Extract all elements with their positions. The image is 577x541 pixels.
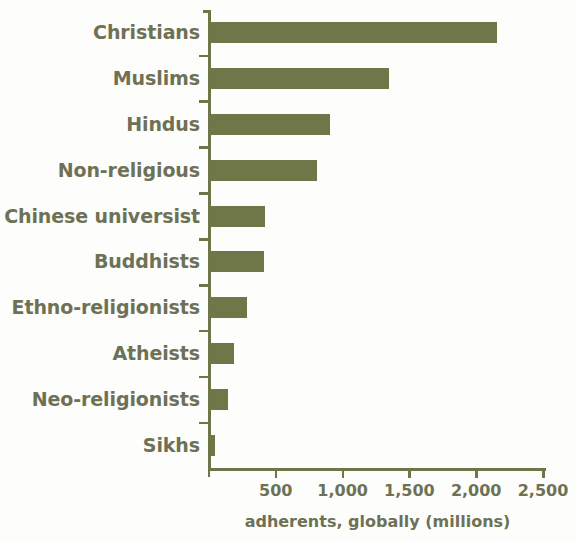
category-label: Chinese universist xyxy=(4,194,200,240)
bar xyxy=(210,206,265,227)
bar-row: Ethno-religionists xyxy=(0,285,577,331)
y-axis-tick xyxy=(199,330,210,333)
bar-chart: ChristiansMuslimsHindusNon-religiousChin… xyxy=(0,0,577,541)
bar-row: Muslims xyxy=(0,56,577,102)
y-axis-tick xyxy=(199,192,210,195)
x-axis-tick xyxy=(475,468,478,478)
bar xyxy=(210,68,389,89)
bar-rows: ChristiansMuslimsHindusNon-religiousChin… xyxy=(0,10,577,469)
category-label: Sikhs xyxy=(143,423,200,469)
y-axis-tick xyxy=(199,146,210,149)
x-axis-tick-label: 500 xyxy=(259,481,292,500)
category-label: Muslims xyxy=(113,56,200,102)
y-axis-tick xyxy=(199,100,210,103)
bar-row: Buddhists xyxy=(0,239,577,285)
bar-row: Non-religious xyxy=(0,148,577,194)
bar xyxy=(210,435,215,456)
y-axis-tick xyxy=(199,284,210,287)
bar-row: Sikhs xyxy=(0,423,577,469)
y-axis-tick xyxy=(199,376,210,379)
bar xyxy=(210,114,330,135)
bar-row: Chinese universist xyxy=(0,194,577,240)
x-axis-tick-label: 1,500 xyxy=(384,481,435,500)
category-label: Buddhists xyxy=(94,239,200,285)
bar-row: Hindus xyxy=(0,102,577,148)
bar xyxy=(210,297,247,318)
x-axis-tick xyxy=(542,468,545,478)
bar-row: Neo-religionists xyxy=(0,377,577,423)
category-label: Atheists xyxy=(112,331,200,377)
bar xyxy=(210,22,497,43)
x-axis-tick-label: 2,000 xyxy=(451,481,502,500)
x-axis-tick xyxy=(342,468,345,478)
category-label: Non-religious xyxy=(58,148,200,194)
bar-row: Atheists xyxy=(0,331,577,377)
y-axis-tick xyxy=(199,55,210,58)
bar-row: Christians xyxy=(0,10,577,56)
y-axis-tick xyxy=(199,422,210,425)
bar xyxy=(210,389,228,410)
bar xyxy=(210,343,234,364)
bar xyxy=(210,251,264,272)
category-label: Christians xyxy=(93,10,200,56)
x-axis-tick xyxy=(408,468,411,478)
x-axis-title: adherents, globally (millions) xyxy=(0,512,577,531)
category-label: Ethno-religionists xyxy=(12,285,200,331)
category-label: Neo-religionists xyxy=(32,377,200,423)
x-axis-tick-label: 2,500 xyxy=(518,481,569,500)
bar xyxy=(210,160,317,181)
x-axis-tick xyxy=(275,468,278,478)
x-axis-tick-label: 1,000 xyxy=(317,481,368,500)
y-axis-tick xyxy=(199,238,210,241)
category-label: Hindus xyxy=(126,102,200,148)
